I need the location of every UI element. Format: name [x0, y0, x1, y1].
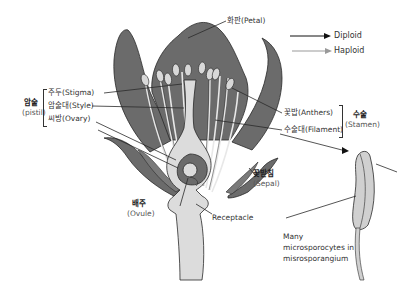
stamen-label-ko: 수술	[353, 111, 367, 119]
ovule-label-ko: 배주	[132, 200, 146, 208]
pistil-bracket	[43, 89, 47, 127]
ovule-label-en: (Ovule)	[127, 210, 155, 218]
pistil-label-ko: 암술	[24, 99, 38, 107]
stamen-filament-detail	[355, 228, 364, 280]
microsporocytes-label-line3: misrosporangium	[283, 255, 348, 263]
anthers-label: 꽃밥(Anthers)	[284, 109, 333, 117]
legend-haploid-arrow	[292, 48, 332, 54]
sepal-label-ko: 꽃받침	[253, 170, 274, 178]
stamen-bracket	[339, 105, 343, 138]
ovule	[183, 163, 197, 177]
stamen-anther-detail	[353, 151, 375, 229]
ovary-label: 씨방(Ovary)	[48, 115, 90, 123]
sepal	[228, 158, 278, 198]
microsporocytes-label-line2: microsporocytes in	[283, 244, 354, 252]
sepal-label-en: (Sepal)	[253, 180, 280, 188]
petal-label: 화판(Petal)	[227, 17, 265, 25]
filament-label: 수술대(Filament)	[284, 126, 343, 134]
legend-diploid-arrow	[290, 33, 331, 39]
legend-haploid-label: Haploid	[334, 47, 364, 55]
legend-diploid-label: Diploid	[334, 32, 362, 40]
style-label: 암술대(Style)	[48, 102, 94, 110]
microsporocytes-label-line1: Many	[283, 233, 303, 241]
stigma-label: 주두(Stigma)	[48, 89, 94, 97]
receptacle-label: Receptacle	[212, 214, 253, 222]
stamen-label-en: (Stamen)	[345, 121, 380, 129]
